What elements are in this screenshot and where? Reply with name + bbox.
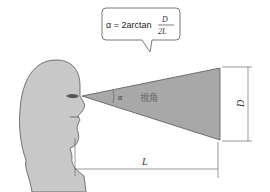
formula-lhs: α = 2arctan <box>106 20 151 30</box>
formula-callout <box>102 8 180 52</box>
head-silhouette <box>19 60 86 192</box>
d-label: D <box>235 99 246 108</box>
visual-angle-cone <box>82 68 220 140</box>
l-label: L <box>141 156 148 167</box>
formula-denominator: 2L <box>158 27 167 36</box>
formula-numerator: D <box>161 15 168 24</box>
visual-angle-diagram: α 視角 α = 2arctan D 2L D L <box>0 0 270 192</box>
visual-angle-label: 視角 <box>140 92 158 103</box>
